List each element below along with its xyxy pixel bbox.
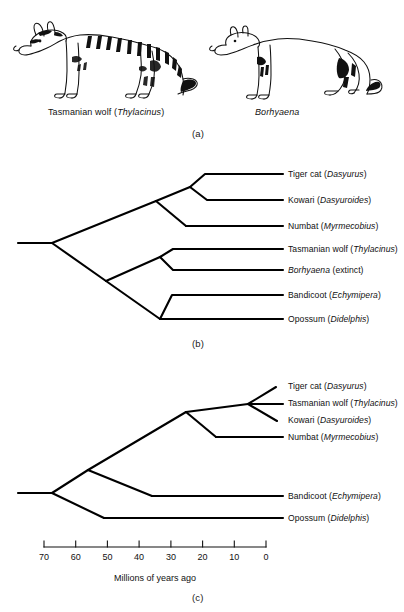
branch-thylacinus	[160, 249, 283, 257]
tip-label-opossum: Opossum (Didelphis)	[288, 314, 369, 324]
tip-label-numbat: Numbat (Myrmecobius)	[288, 221, 378, 231]
axis-tick-label-30: 30	[166, 552, 176, 562]
branch-bandicoot-stem-c	[88, 470, 152, 496]
branch-upper-clade	[52, 201, 156, 243]
branch-lower-clade	[52, 243, 106, 281]
axis-tick-label-70: 70	[39, 552, 49, 562]
branch-numbat-stem-c	[186, 412, 216, 437]
tip-label-thylacinus-c: Tasmanian wolf (Thylacinus)	[288, 398, 398, 408]
panel-a-illustrations	[0, 5, 404, 105]
tip-label-tigercat: Tiger cat (Dasyurus)	[288, 169, 367, 179]
panel-c-label: (c)	[192, 592, 204, 603]
branch-bandicoot-opossum-stem	[106, 281, 160, 319]
thylacinus-illustration	[14, 22, 198, 98]
axis-tick-label-10: 10	[229, 552, 239, 562]
branch-tigercat	[190, 174, 283, 187]
axis-tick-label-0: 0	[263, 552, 268, 562]
tip-label-borhyaena: Borhyaena (extinct)	[288, 265, 364, 275]
branch-thylacinid-stem	[106, 257, 160, 281]
borhyaena-caption: Borhyaena	[255, 107, 299, 117]
branch-borhyaena	[160, 257, 283, 270]
tip-label-bandicoot: Bandicoot (Echymipera)	[288, 290, 381, 300]
panel-b-cladogram: Tiger cat (Dasyurus) Kowari (Dasyuroides…	[0, 162, 404, 342]
axis-tick-label-50: 50	[102, 552, 112, 562]
panel-c-phylogram: Tiger cat (Dasyurus) Tasmanian wolf (Thy…	[0, 375, 404, 535]
branch-opossum-stem-c	[52, 493, 104, 518]
borhyaena-illustration	[210, 26, 382, 99]
tip-label-thylacinus: Tasmanian wolf (Thylacinus)	[288, 244, 398, 254]
axis-tick-label-20: 20	[198, 552, 208, 562]
tip-label-kowari: Kowari (Dasyuroides)	[288, 195, 371, 205]
panel-a-label: (a)	[192, 128, 204, 139]
branch-bandicoot	[160, 295, 283, 319]
tip-label-numbat-c: Numbat (Myrmecobius)	[288, 432, 378, 442]
thylacinus-caption: Tasmanian wolf (Thylacinus)	[48, 107, 164, 117]
branch-kowari	[190, 187, 283, 200]
branch-dasyurid-node	[156, 187, 190, 201]
panel-b-label: (b)	[192, 338, 204, 349]
axis-tick-label-60: 60	[71, 552, 81, 562]
tip-label-tigercat-c: Tiger cat (Dasyurus)	[288, 381, 367, 391]
branch-dasyurid-lineage-c	[88, 412, 186, 470]
branch-fan-stem-c	[186, 404, 248, 412]
figure-marsupial-phylogeny: Tasmanian wolf (Thylacinus) Borhyaena (a…	[0, 0, 404, 612]
tip-label-opossum-c: Opossum (Didelphis)	[288, 513, 369, 523]
axis-tick-label-40: 40	[134, 552, 144, 562]
tip-label-kowari-c: Kowari (Dasyuroides)	[288, 415, 371, 425]
branch-numbat-stem	[156, 201, 186, 226]
axis-title: Millions of years ago	[114, 573, 196, 583]
axis-ticks	[44, 541, 266, 547]
branch-upper-c	[52, 470, 88, 493]
branch-kowari-c	[248, 404, 277, 421]
tip-label-bandicoot-c: Bandicoot (Echymipera)	[288, 491, 381, 501]
branch-tigercat-c	[248, 387, 276, 404]
